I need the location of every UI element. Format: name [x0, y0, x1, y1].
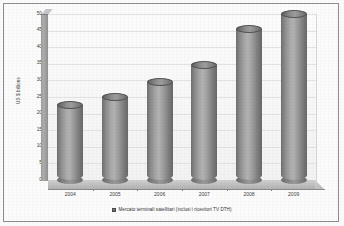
y-tick-label: 15	[28, 128, 42, 133]
y-tick-label: 35	[28, 61, 42, 66]
legend-swatch-icon	[112, 208, 116, 212]
left-wall	[41, 14, 48, 181]
floor-front-edge	[48, 189, 325, 190]
bar-body	[147, 82, 173, 180]
y-tick-label: 20	[28, 111, 42, 116]
bar-body	[191, 65, 217, 180]
y-axis-title: US $ billions	[16, 61, 21, 121]
x-tick-label: 2008	[232, 192, 266, 197]
bar	[236, 29, 262, 180]
y-tick-label: 0	[28, 178, 42, 183]
bar-top-ellipse	[147, 78, 173, 86]
x-tick-label: 2004	[53, 192, 87, 197]
bar-top-ellipse	[102, 93, 128, 101]
legend-label: Mercato terminali satellitari (inclusi i…	[118, 207, 231, 212]
x-tick-label: 2005	[98, 192, 132, 197]
chart-legend: Mercato terminali satellitari (inclusi i…	[0, 207, 344, 212]
x-tick-label: 2009	[277, 192, 311, 197]
x-tick-label: 2007	[187, 192, 221, 197]
x-axis-labels: 200420052006200720082009	[48, 192, 316, 202]
bar-body	[236, 29, 262, 180]
y-tick-label: 25	[28, 95, 42, 100]
bar-top-ellipse	[236, 25, 262, 33]
bar-body	[57, 105, 83, 180]
bar	[191, 65, 217, 180]
y-tick-label: 40	[28, 45, 42, 50]
y-tick-label: 50	[28, 12, 42, 17]
bar	[281, 14, 307, 180]
bar	[57, 105, 83, 180]
x-tick-label: 2006	[143, 192, 177, 197]
y-axis-ticks: 05101520253035404550	[26, 14, 42, 186]
bar	[147, 82, 173, 180]
y-tick-label: 45	[28, 28, 42, 33]
bars-layer	[48, 14, 316, 180]
y-tick-label: 30	[28, 78, 42, 83]
bar-chart-figure: US $ billions 05101520253035404550 20042…	[0, 0, 344, 226]
y-tick-label: 10	[28, 144, 42, 149]
bar-body	[102, 97, 128, 180]
bar	[102, 97, 128, 180]
plot-area	[48, 14, 316, 186]
y-tick-label: 5	[28, 161, 42, 166]
bar-body	[281, 14, 307, 180]
bar-top-ellipse	[281, 10, 307, 18]
